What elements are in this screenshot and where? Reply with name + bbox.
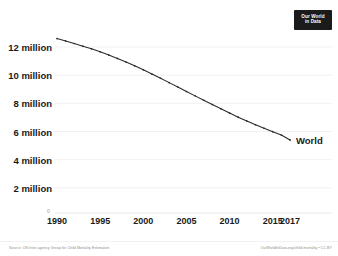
series-data-point[interactable] <box>194 95 196 97</box>
series-data-point[interactable] <box>186 91 188 93</box>
series-data-point[interactable] <box>220 108 222 110</box>
chart-container: Our World in Data 2 million4 million6 mi… <box>0 0 338 256</box>
series-data-point[interactable] <box>142 69 144 71</box>
license-note[interactable]: OurWorldInData.org/child-mortality • CC … <box>260 246 332 250</box>
series-data-point[interactable] <box>229 112 231 114</box>
series-data-point[interactable] <box>108 54 110 56</box>
y-axis-tick-label: 4 million <box>8 154 52 165</box>
series-label-world: World <box>296 134 323 145</box>
series-data-point[interactable] <box>211 104 213 106</box>
y-axis-tick-label: 10 million <box>8 70 52 81</box>
series-data-point[interactable] <box>99 51 101 53</box>
series-data-point[interactable] <box>272 131 274 133</box>
series-data-point[interactable] <box>255 124 257 126</box>
series-data-point[interactable] <box>281 134 283 136</box>
series-data-point[interactable] <box>82 45 84 47</box>
x-axis-tick-label: 2010 <box>220 216 240 226</box>
x-axis-tick-label: 2017 <box>280 216 300 226</box>
y-axis-tick-label: 6 million <box>8 126 52 137</box>
x-axis-tick-label: 1995 <box>90 216 110 226</box>
series-data-point[interactable] <box>73 43 75 45</box>
x-axis-tick-label: 2000 <box>133 216 153 226</box>
x-axis-tick-label: 1990 <box>47 216 67 226</box>
series-data-point[interactable] <box>246 120 248 122</box>
series-data-point[interactable] <box>134 65 136 67</box>
y-axis-tick-label: 2 million <box>8 182 52 193</box>
x-axis-tick-label: 2005 <box>176 216 196 226</box>
series-data-point[interactable] <box>203 99 205 101</box>
series-data-point[interactable] <box>65 40 67 42</box>
source-note: Source: UN Inter-agency Group for Child … <box>9 246 109 250</box>
y-axis-tick-label: 8 million <box>8 98 52 109</box>
series-data-point[interactable] <box>289 139 291 141</box>
series-data-point[interactable] <box>151 73 153 75</box>
series-data-point[interactable] <box>117 58 119 60</box>
series-points-group <box>56 38 291 141</box>
series-data-point[interactable] <box>177 86 179 88</box>
y-axis-zero-label: 0 <box>47 208 50 214</box>
gridlines-group <box>55 47 332 188</box>
series-data-point[interactable] <box>91 48 93 50</box>
series-data-point[interactable] <box>56 38 58 40</box>
series-data-point[interactable] <box>263 127 265 129</box>
series-data-point[interactable] <box>168 82 170 84</box>
y-axis-tick-label: 12 million <box>8 42 52 53</box>
series-data-point[interactable] <box>125 61 127 63</box>
series-data-point[interactable] <box>237 116 239 118</box>
series-data-point[interactable] <box>160 77 162 79</box>
footer-divider <box>0 241 338 242</box>
